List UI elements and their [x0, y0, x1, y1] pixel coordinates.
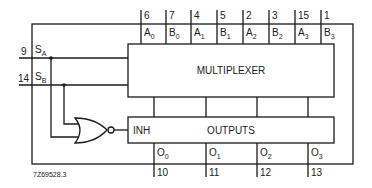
svg-text:O1: O1 [209, 147, 221, 160]
inh-label: INH [133, 125, 150, 136]
svg-text:O2: O2 [260, 147, 272, 160]
svg-text:15: 15 [298, 10, 310, 21]
figure-id: 7Z69528.3 [33, 171, 67, 178]
svg-text:14: 14 [18, 73, 30, 84]
svg-text:A2: A2 [246, 27, 257, 40]
svg-text:11: 11 [209, 167, 220, 178]
svg-text:SA: SA [35, 44, 47, 57]
svg-text:1: 1 [324, 10, 330, 21]
svg-text:O3: O3 [311, 147, 323, 160]
svg-text:2: 2 [246, 10, 252, 21]
svg-text:4: 4 [194, 10, 200, 21]
svg-text:A0: A0 [144, 27, 155, 40]
svg-text:A3: A3 [298, 27, 309, 40]
svg-text:6: 6 [144, 10, 150, 21]
input-pins: 6 7 4 5 2 3 15 1 [144, 10, 330, 21]
multiplexer-logic-diagram: MULTIPLEXER OUTPUTS INH 6 7 4 5 2 3 15 1… [0, 0, 372, 188]
svg-text:B3: B3 [324, 27, 335, 40]
output-pins: O0 O1 O2 O3 10 11 12 13 [154, 143, 323, 178]
svg-text:B2: B2 [272, 27, 283, 40]
svg-text:SB: SB [35, 71, 47, 84]
svg-text:5: 5 [220, 10, 226, 21]
svg-text:7: 7 [169, 10, 175, 21]
outputs-label: OUTPUTS [207, 125, 255, 136]
internal-connectors [154, 97, 308, 117]
svg-text:B0: B0 [169, 27, 180, 40]
nor-gate-icon [75, 118, 128, 143]
svg-text:12: 12 [260, 167, 272, 178]
svg-text:A1: A1 [194, 27, 205, 40]
select-lines: 9 14 SA SB [18, 44, 128, 137]
svg-text:3: 3 [272, 10, 278, 21]
svg-text:10: 10 [157, 167, 169, 178]
input-labels: A0 B0 A1 B1 A2 B2 A3 B3 [144, 27, 335, 40]
svg-text:9: 9 [21, 46, 27, 57]
input-columns [141, 10, 321, 44]
multiplexer-label: MULTIPLEXER [197, 65, 266, 76]
svg-text:13: 13 [311, 167, 323, 178]
svg-text:B1: B1 [220, 27, 231, 40]
svg-text:O0: O0 [157, 147, 169, 160]
